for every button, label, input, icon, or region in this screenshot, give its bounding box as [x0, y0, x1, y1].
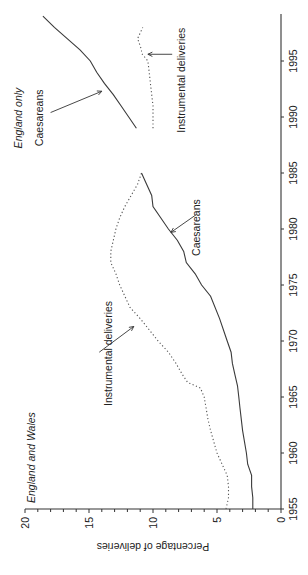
x-tick-label: 1955 [287, 497, 299, 521]
annotation-instrumental-england-only: Instrumental deliveries [175, 28, 187, 133]
region-label-england-only: England only [12, 87, 24, 148]
annotation-instrumental-england-wales: Instrumental deliveries [102, 301, 114, 406]
y-axis-ticks: 05101520 [19, 509, 287, 529]
y-tick-label: 5 [211, 517, 223, 523]
x-tick-label: 1990 [287, 105, 299, 129]
x-axis-ticks: 195519601965197019751980198519901995 [281, 49, 299, 521]
y-tick-label: 20 [19, 517, 31, 529]
x-tick-label: 1965 [287, 385, 299, 409]
y-axis-title: Percentage of deliveries [97, 541, 210, 553]
x-tick-label: 1960 [287, 441, 299, 465]
chart-canvas: 195519601965197019751980198519901995 051… [0, 0, 308, 575]
x-tick-label: 1975 [287, 273, 299, 297]
chart: 195519601965197019751980198519901995 051… [0, 0, 308, 575]
y-tick-label: 15 [83, 517, 95, 529]
annotation-caesareans-england-only: Caesareans [33, 89, 45, 146]
y-tick-label: 10 [147, 517, 159, 529]
annotations: England and Wales England only Instrumen… [12, 28, 202, 503]
line-caesareans-england-only [43, 16, 136, 128]
annotation-caesareans-england-wales: Caesareans [190, 199, 202, 256]
region-label-england-wales: England and Wales [25, 411, 37, 503]
y-tick-label: 0 [275, 517, 287, 523]
line-instrumental-england-only [138, 27, 153, 128]
x-tick-label: 1985 [287, 161, 299, 185]
series-group [43, 16, 253, 509]
x-tick-label: 1970 [287, 329, 299, 353]
line-instrumental-england-wales [111, 173, 229, 509]
x-tick-label: 1980 [287, 217, 299, 241]
x-tick-label: 1995 [287, 49, 299, 73]
axes: 195519601965197019751980198519901995 051… [19, 14, 299, 553]
arrow-icon [51, 91, 102, 112]
